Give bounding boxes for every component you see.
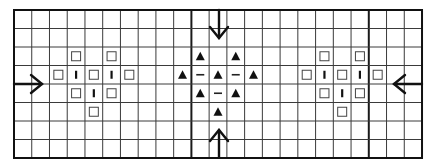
square-symbol-icon bbox=[72, 89, 81, 98]
triangle-symbol-icon bbox=[214, 107, 223, 116]
square-symbol-icon bbox=[125, 70, 134, 79]
arrow-right-from-left-edge-icon bbox=[14, 75, 42, 93]
triangle-symbol-icon bbox=[231, 89, 240, 98]
square-symbol-icon bbox=[107, 89, 116, 98]
square-symbol-icon bbox=[89, 70, 98, 79]
square-symbol-icon bbox=[107, 52, 116, 61]
square-symbol-icon bbox=[89, 107, 98, 116]
stitch-grid bbox=[0, 0, 433, 159]
triangle-symbol-icon bbox=[249, 70, 258, 79]
square-symbol-icon bbox=[355, 89, 364, 98]
arrow-up-from-bottom-edge-icon bbox=[210, 130, 228, 158]
square-symbol-icon bbox=[373, 70, 382, 79]
square-symbol-icon bbox=[320, 89, 329, 98]
square-symbol-icon bbox=[355, 52, 364, 61]
arrow-down-from-top-edge-icon bbox=[210, 10, 228, 38]
knitting-chart-diagram bbox=[0, 0, 433, 159]
triangle-symbol-icon bbox=[231, 52, 240, 61]
square-symbol-icon bbox=[72, 52, 81, 61]
triangle-symbol-icon bbox=[214, 70, 223, 79]
square-symbol-icon bbox=[302, 70, 311, 79]
triangle-symbol-icon bbox=[178, 70, 187, 79]
square-symbol-icon bbox=[54, 70, 63, 79]
triangle-symbol-icon bbox=[196, 52, 205, 61]
triangle-symbol-icon bbox=[196, 89, 205, 98]
square-symbol-icon bbox=[338, 70, 347, 79]
arrow-left-from-right-edge-icon bbox=[394, 75, 422, 93]
square-symbol-icon bbox=[320, 52, 329, 61]
square-symbol-icon bbox=[338, 107, 347, 116]
